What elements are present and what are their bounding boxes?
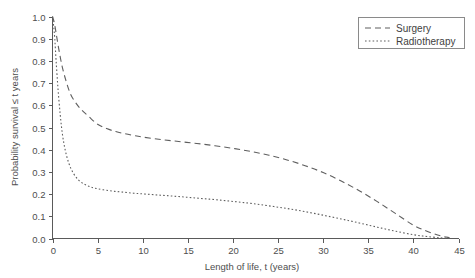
- x-axis-title: Length of life, t (years): [205, 261, 300, 272]
- legend-label-radiotherapy: Radiotherapy: [396, 36, 455, 47]
- chart-legend: Surgery Radiotherapy: [359, 18, 465, 49]
- x-axis-ticks: 051015202530354045: [51, 239, 465, 256]
- x-tick-label: 15: [183, 245, 194, 256]
- legend-label-surgery: Surgery: [396, 23, 431, 34]
- y-tick-label: 0.8: [32, 56, 45, 67]
- y-tick-label: 1.0: [32, 12, 45, 23]
- y-tick-label: 0.1: [32, 211, 45, 222]
- y-axis-title: Probability survival ≤ t years: [9, 68, 20, 186]
- series-line-surgery: [53, 17, 450, 238]
- y-tick-label: 0.0: [32, 234, 45, 245]
- x-tick-label: 25: [273, 245, 284, 256]
- x-tick-label: 40: [408, 245, 419, 256]
- y-tick-label: 0.6: [32, 100, 45, 111]
- axes-group: [53, 17, 459, 239]
- x-tick-label: 5: [96, 245, 101, 256]
- y-tick-label: 0.7: [32, 78, 45, 89]
- y-axis-ticks: 0.00.10.20.30.40.50.60.70.80.91.0: [32, 12, 52, 245]
- y-tick-label: 0.5: [32, 123, 45, 134]
- series-line-radiotherapy: [53, 17, 450, 239]
- x-tick-label: 20: [228, 245, 239, 256]
- x-tick-label: 30: [318, 245, 329, 256]
- y-tick-label: 0.3: [32, 167, 45, 178]
- y-tick-label: 0.9: [32, 34, 45, 45]
- x-tick-label: 35: [363, 245, 374, 256]
- chart-canvas: 0.00.10.20.30.40.50.60.70.80.91.0 051015…: [0, 0, 475, 278]
- data-curves-group: [53, 17, 450, 239]
- survival-chart-figure: 0.00.10.20.30.40.50.60.70.80.91.0 051015…: [0, 0, 475, 278]
- x-tick-label: 45: [454, 245, 465, 256]
- x-tick-label: 10: [138, 245, 149, 256]
- x-tick-label: 0: [51, 245, 56, 256]
- y-tick-label: 0.2: [32, 189, 45, 200]
- y-tick-label: 0.4: [32, 145, 45, 156]
